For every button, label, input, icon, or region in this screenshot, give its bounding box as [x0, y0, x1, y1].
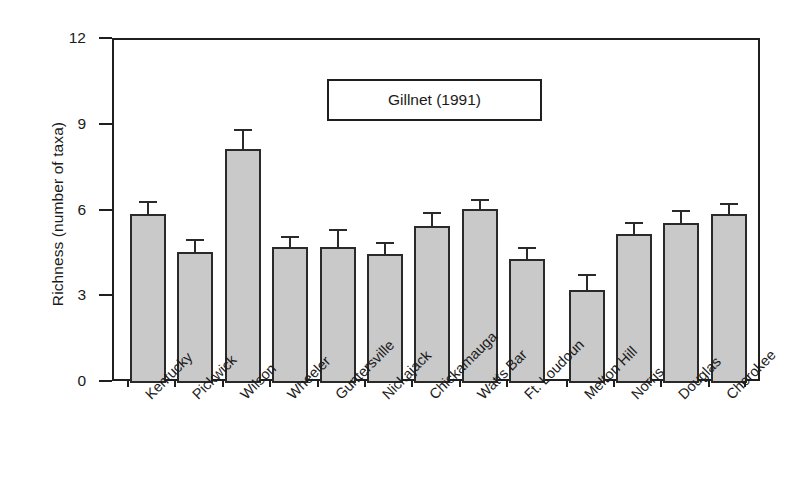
error-bar-cap: [234, 129, 252, 131]
x-tick-mark: [317, 381, 319, 387]
error-bar-cap: [471, 199, 489, 201]
error-bar-cap: [720, 203, 738, 205]
error-bar-stem: [242, 129, 244, 149]
bar: [663, 223, 699, 383]
bar: [272, 247, 308, 383]
x-tick-mark: [506, 381, 508, 387]
x-tick-mark: [411, 381, 413, 387]
y-tick-label: 0: [38, 372, 86, 390]
error-bar-cap: [518, 247, 536, 249]
error-bar-stem: [337, 229, 339, 248]
y-tick-label: 9: [38, 115, 86, 133]
y-tick-mark: [99, 123, 112, 125]
y-tick-mark: [99, 209, 112, 211]
error-bar-stem: [431, 212, 433, 226]
legend-box: Gillnet (1991): [327, 79, 542, 121]
bar-chart-figure: Richness (number of taxa) 036912 Kentuck…: [0, 0, 801, 501]
x-tick-mark: [566, 381, 568, 387]
x-tick-mark: [660, 381, 662, 387]
x-tick-mark: [708, 381, 710, 387]
x-tick-mark: [459, 381, 461, 387]
error-bar-cap: [578, 274, 596, 276]
x-tick-mark: [127, 381, 129, 387]
error-bar-cap: [281, 236, 299, 238]
legend-label: Gillnet (1991): [388, 91, 481, 109]
y-tick-label: 12: [38, 29, 86, 47]
error-bar-cap: [423, 212, 441, 214]
error-bar-cap: [186, 239, 204, 241]
bar: [130, 214, 166, 383]
x-tick-mark: [269, 381, 271, 387]
error-bar-cap: [672, 210, 690, 212]
x-tick-mark: [613, 381, 615, 387]
y-tick-mark: [99, 37, 112, 39]
error-bar-stem: [586, 274, 588, 290]
y-tick-mark: [99, 294, 112, 296]
x-tick-mark: [174, 381, 176, 387]
y-tick-label: 3: [38, 286, 86, 304]
y-tick-mark: [99, 380, 112, 382]
error-bar-cap: [139, 201, 157, 203]
error-bar-cap: [625, 222, 643, 224]
y-tick-label: 6: [38, 201, 86, 219]
x-tick-mark: [222, 381, 224, 387]
error-bar-cap: [376, 242, 394, 244]
x-tick-mark: [364, 381, 366, 387]
bar: [225, 149, 261, 383]
error-bar-cap: [329, 229, 347, 231]
